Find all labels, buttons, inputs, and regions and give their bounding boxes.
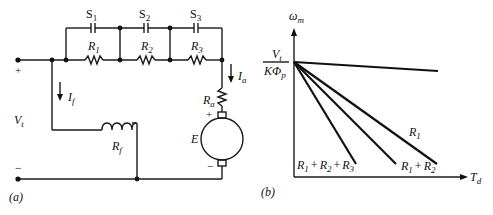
node-right — [220, 58, 225, 63]
label-motor-plus: + — [206, 108, 212, 120]
caption-b: (b) — [261, 185, 275, 199]
junction-switch — [64, 58, 69, 63]
label-s2: S2 — [139, 7, 150, 23]
label-intercept-numerator: Vt — [272, 47, 282, 63]
curve-r1-r2-r3 — [294, 62, 356, 164]
curve-r1-r2 — [294, 62, 396, 164]
label-intercept-denominator: KΦp — [263, 64, 286, 80]
y-axis-arrow-icon — [291, 28, 297, 36]
label-curve-r1-r2-r3: R1+R2+R3 — [296, 158, 355, 174]
curve-no-resistance — [294, 62, 438, 71]
label-td: Td — [470, 170, 482, 186]
resistor-r3 — [188, 56, 206, 64]
label-terminal-plus: + — [15, 64, 21, 76]
motor-brush-top — [218, 112, 226, 118]
x-axis-arrow-icon — [460, 174, 468, 180]
arrow-ia-head — [228, 76, 234, 83]
label-curve-r1-r2: R1+R2 — [400, 159, 436, 175]
label-curve-r1: R1 — [408, 125, 421, 141]
node-2-bottom — [168, 58, 173, 63]
node-2-top — [168, 26, 173, 31]
motor-armature — [201, 118, 243, 160]
resistor-r2 — [137, 56, 155, 64]
label-rf: Rf — [111, 139, 123, 155]
label-motor-minus: − — [207, 160, 213, 172]
arrow-if-head — [57, 94, 63, 101]
circuit-diagram: S1 S2 S3 R1 R2 R3 + − Vt If Ia Ra Rf E +… — [9, 7, 247, 204]
label-if: If — [67, 90, 76, 106]
field-winding-rf — [102, 123, 136, 130]
label-vt: Vt — [14, 113, 24, 129]
caption-a: (a) — [9, 190, 23, 204]
label-omega-m: ωm — [289, 9, 304, 25]
resistor-ra — [218, 88, 226, 106]
figure-canvas: S1 S2 S3 R1 R2 R3 + − Vt If Ia Ra Rf E +… — [0, 0, 493, 215]
resistor-r1 — [85, 56, 103, 64]
label-s3: S3 — [190, 7, 202, 23]
label-e: E — [190, 132, 199, 146]
label-s1: S1 — [86, 7, 97, 23]
label-r3: R3 — [190, 39, 203, 55]
curve-r1 — [294, 62, 437, 164]
terminal-plus-node — [15, 57, 20, 62]
label-r1: R1 — [87, 39, 100, 55]
label-r2: R2 — [140, 39, 153, 55]
label-terminal-minus: − — [15, 161, 22, 175]
label-ia: Ia — [237, 69, 247, 85]
label-ra: Ra — [202, 93, 215, 109]
terminal-minus-node — [15, 176, 20, 181]
node-1-bottom — [118, 58, 123, 63]
speed-torque-chart: ωm Td Vt KΦp R1 R1+R2 R1+R2+R3 (b) — [261, 9, 482, 199]
motor-brush-bottom — [218, 160, 226, 166]
node-1-top — [118, 26, 123, 31]
